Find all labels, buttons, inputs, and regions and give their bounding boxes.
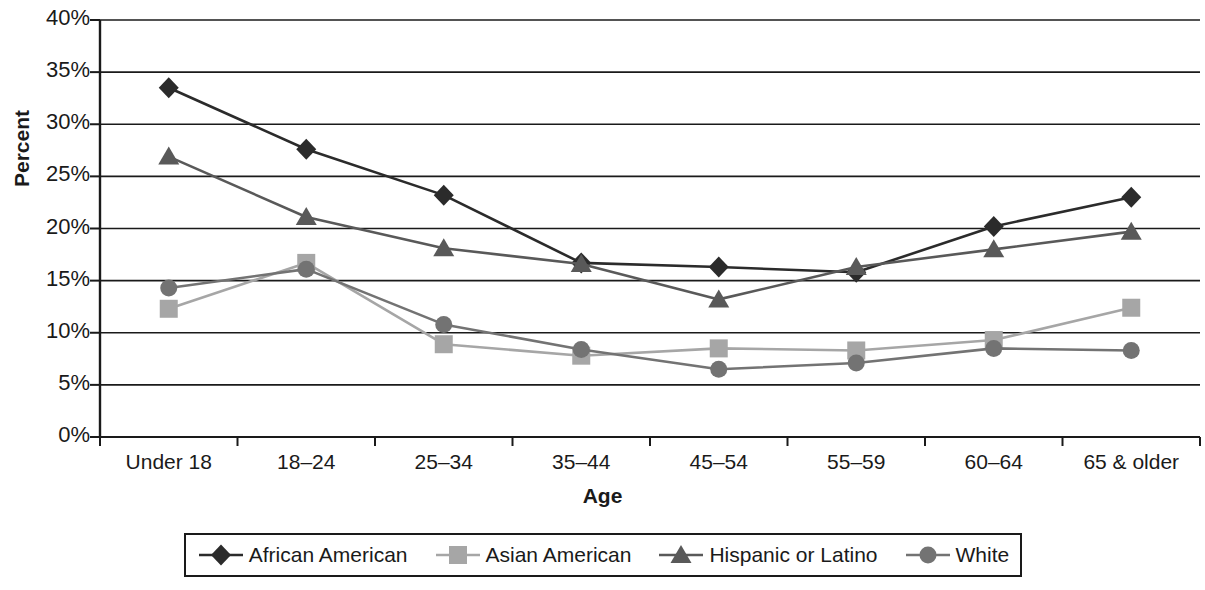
x-tick-label: 35–44	[552, 450, 610, 474]
marker-diamond	[211, 545, 231, 566]
legend-label: Hispanic or Latino	[709, 543, 877, 567]
x-tick-label: 55–59	[827, 450, 885, 474]
marker-diamond	[709, 257, 729, 278]
marker-triangle	[1121, 222, 1142, 240]
series-line	[169, 269, 1132, 369]
plot-area	[0, 0, 1205, 460]
marker-circle	[435, 316, 452, 333]
marker-triangle	[296, 207, 317, 225]
legend-label: White	[956, 543, 1010, 567]
marker-square	[1122, 299, 1140, 317]
x-tick-label: 65 & older	[1083, 450, 1179, 474]
marker-circle	[160, 279, 177, 296]
marker-square	[710, 339, 728, 357]
legend-item[interactable]: African American	[197, 543, 408, 567]
marker-square	[435, 335, 453, 353]
marker-circle	[573, 341, 590, 358]
legend-label: Asian American	[486, 543, 632, 567]
chart-root: Percent 40%35%30%25%20%15%10%5%0% Under …	[0, 0, 1205, 590]
x-tick-label: 18–24	[277, 450, 335, 474]
marker-diamond	[984, 216, 1004, 237]
legend-marker-square-icon	[434, 543, 482, 567]
x-tick-label: 60–64	[965, 450, 1023, 474]
marker-triangle	[158, 147, 179, 165]
marker-square	[449, 546, 467, 564]
x-tick-label: 45–54	[690, 450, 748, 474]
marker-diamond	[434, 185, 454, 206]
x-tick-label: 25–34	[415, 450, 473, 474]
x-tick-label: Under 18	[126, 450, 212, 474]
legend-marker-triangle-icon	[657, 543, 705, 567]
marker-circle	[298, 261, 315, 278]
marker-circle	[985, 340, 1002, 357]
marker-square	[160, 300, 178, 318]
legend-item[interactable]: White	[904, 543, 1010, 567]
marker-circle	[1123, 342, 1140, 359]
series-line	[169, 88, 1132, 273]
series-white	[160, 261, 1140, 378]
legend-marker-circle-icon	[904, 543, 952, 567]
marker-circle	[710, 361, 727, 378]
x-axis-title: Age	[0, 484, 1205, 508]
marker-diamond	[1121, 187, 1141, 208]
legend-marker-diamond-icon	[197, 543, 245, 567]
legend-item[interactable]: Hispanic or Latino	[657, 543, 877, 567]
chart-legend: African AmericanAsian AmericanHispanic o…	[184, 533, 1022, 577]
legend-item[interactable]: Asian American	[434, 543, 632, 567]
marker-circle	[919, 547, 936, 564]
legend-label: African American	[249, 543, 408, 567]
marker-diamond	[159, 77, 179, 98]
marker-circle	[848, 354, 865, 371]
marker-diamond	[296, 139, 316, 160]
